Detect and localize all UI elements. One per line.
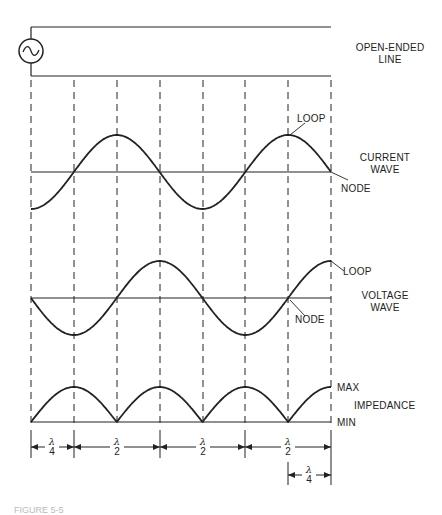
impedance-curve [31,387,331,422]
quarter-wave-guides [31,80,331,425]
fraction-denominator: 4 [302,475,316,485]
ac-source-icon [19,39,43,63]
impedance-label: IMPEDANCE [354,400,415,412]
fraction-denominator: 4 [45,447,59,457]
line-label-2: LINE [378,54,401,65]
current-loop-label: LOOP [297,113,326,125]
voltage-wave-label: VOLTAGE WAVE [350,290,420,314]
impedance-max-label: MAX [337,382,359,394]
dimension-half-wave: λ 2 [110,437,124,457]
voltage-node-label: NODE [295,314,325,326]
open-ended-line [31,27,331,76]
current-wave [31,123,348,209]
fraction-denominator: 2 [110,447,124,457]
dimension-half-wave: λ 2 [281,437,295,457]
line-label: OPEN-ENDED LINE [350,42,430,66]
voltage-loop-label: LOOP [343,266,372,278]
voltage-label-2: WAVE [370,302,399,313]
dimension-quarter-wave-end: λ 4 [302,465,316,485]
fraction-denominator: 2 [281,447,295,457]
figure-caption: FIGURE 5-5 [14,505,64,515]
impedance-min-label: MIN [337,417,356,429]
fraction-denominator: 2 [196,447,210,457]
current-node-label: NODE [341,183,371,195]
line-label-1: OPEN-ENDED [356,42,425,53]
voltage-label-1: VOLTAGE [361,290,408,301]
current-label-2: WAVE [370,164,399,175]
dimension-quarter-wave: λ 4 [45,437,59,457]
current-wave-label: CURRENT WAVE [350,152,420,176]
dimension-half-wave: λ 2 [196,437,210,457]
current-label-1: CURRENT [360,152,410,163]
